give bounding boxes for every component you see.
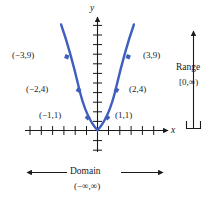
y-axis-label: y xyxy=(90,4,94,14)
plot-canvas xyxy=(0,0,218,201)
point-label-2-4: (2,4) xyxy=(129,85,146,94)
point-marker-neg3-9 xyxy=(64,54,69,59)
point-label-neg2-4: (−2,4) xyxy=(26,85,48,94)
domain-interval: (−∞,∞) xyxy=(74,182,100,191)
point-label-neg1-1: (−1,1) xyxy=(39,111,61,120)
x-axis-label: x xyxy=(171,126,175,136)
point-marker-3-9 xyxy=(126,54,131,59)
range-interval: [0,∞) xyxy=(179,78,198,87)
point-label-3-9: (3,9) xyxy=(143,51,160,60)
domain-label: Domain xyxy=(70,167,101,177)
point-label-1-1: (1,1) xyxy=(115,111,132,120)
point-label-neg3-9: (−3,9) xyxy=(12,51,34,60)
range-label: Range xyxy=(176,63,200,73)
function-graph-figure: y x (−3,9) (−2,4) (−1,1) (1,1) (2,4) (3,… xyxy=(0,0,218,201)
